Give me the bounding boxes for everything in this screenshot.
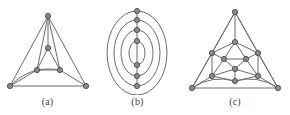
- edge-outer-top-to-inner-bottom-left: [37, 16, 48, 70]
- vertex-bottom-left: [189, 85, 194, 90]
- vertex-node-6: [134, 73, 139, 78]
- graph-drawing-c: [180, 0, 290, 95]
- edge-core-bottom-to-low-left: [212, 69, 235, 76]
- vertex-apex: [232, 9, 237, 14]
- caption-b: (b): [95, 96, 180, 108]
- edge-outer-top-to-outer-bottom-left: [10, 16, 48, 86]
- vertex-low-left: [209, 73, 214, 78]
- vertex-outer-top: [45, 13, 50, 18]
- graph-drawing-b: [95, 0, 180, 95]
- vertex-low-right: [255, 73, 260, 78]
- figure-panel-a: (a): [0, 0, 95, 115]
- vertex-node-2: [134, 17, 139, 22]
- caption-a: (a): [0, 96, 95, 108]
- edge-low-left-to-bottom-mid: [212, 76, 235, 81]
- vertex-node-1: [134, 8, 139, 13]
- edge-core-bottom-to-low-right: [235, 69, 258, 76]
- caption-c: (c): [180, 96, 290, 108]
- vertex-ring-left: [209, 50, 214, 55]
- vertex-inner-bottom-right: [57, 67, 62, 72]
- edge-core-right-to-low-right: [246, 59, 258, 76]
- vertex-inner-bottom-left: [34, 67, 39, 72]
- figure-panel-b: (b): [95, 0, 180, 115]
- edge-inner-top-to-inner-bottom-left: [37, 48, 48, 70]
- figure-container: (a) (b) (c): [0, 0, 290, 115]
- vertex-node-3: [134, 27, 139, 32]
- vertex-bottom-right: [275, 85, 280, 90]
- vertex-core-left: [221, 56, 226, 61]
- edge-bottom-left-to-bottom-mid: [192, 79, 235, 88]
- edge-bottom-right-to-bottom-mid: [235, 79, 278, 88]
- vertex-node-5: [134, 62, 139, 67]
- vertex-outer-bottom-left: [7, 83, 12, 88]
- edge-inner-bottom-right-to-inner-top: [48, 48, 60, 70]
- figure-panel-c: (c): [180, 0, 290, 115]
- graph-drawing-a: [0, 0, 95, 95]
- edge-low-right-to-bottom-mid: [235, 76, 258, 81]
- vertex-outer-bottom-right: [83, 83, 88, 88]
- vertex-node-7: [134, 83, 139, 88]
- edge-outer-top-to-inner-bottom-right: [48, 16, 60, 70]
- vertex-core-bottom: [232, 66, 237, 71]
- vertex-node-4: [134, 38, 139, 43]
- vertex-inner-top: [45, 45, 50, 50]
- edge-outer-top-to-outer-bottom-right: [48, 16, 86, 86]
- vertex-core-right: [243, 56, 248, 61]
- vertex-upper-mid: [232, 39, 237, 44]
- vertex-bottom-mid: [232, 78, 237, 83]
- edge-core-left-to-low-left: [212, 59, 224, 76]
- vertex-ring-right: [255, 50, 260, 55]
